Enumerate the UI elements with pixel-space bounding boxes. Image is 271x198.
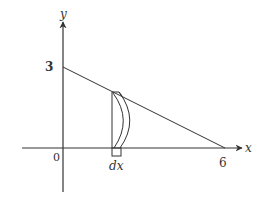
y-axis-label: y [59, 7, 67, 21]
origin-label: 0 [53, 151, 60, 164]
x-axis-label: x [245, 141, 252, 155]
y-intercept-label: 3 [45, 60, 53, 74]
diagram-canvas: y x 0 3 6 dx [0, 0, 271, 198]
dx-marker [112, 148, 121, 156]
rotation-arc-outer [119, 92, 130, 148]
rotation-arc-inner [113, 93, 123, 148]
boundary-line [63, 67, 225, 148]
x-intercept-label: 6 [219, 156, 227, 170]
dx-label: dx [109, 159, 124, 173]
